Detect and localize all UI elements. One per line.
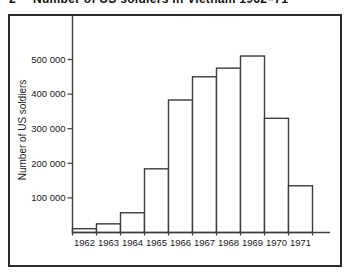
bar-1967 — [193, 77, 217, 233]
bar-1965 — [145, 169, 169, 233]
y-tick-label: 500 000 — [31, 54, 65, 65]
x-tick-label: 1963 — [98, 237, 119, 248]
bar-1963 — [97, 224, 121, 233]
y-tick-label: 200 000 — [31, 158, 65, 169]
x-tick-label: 1964 — [122, 237, 143, 248]
bar-1964 — [121, 213, 145, 233]
bar-chart: 100 000200 000300 000400 000500 00019621… — [0, 0, 351, 272]
x-tick-label: 1969 — [242, 237, 263, 248]
figure-page: 2Number of US soldiers in Vietnam 1962–7… — [0, 0, 351, 272]
bar-1970 — [265, 118, 289, 232]
bar-1969 — [241, 56, 265, 232]
x-tick-label: 1967 — [194, 237, 215, 248]
y-tick-label: 300 000 — [31, 123, 65, 134]
y-tick-label: 400 000 — [31, 88, 65, 99]
x-tick-label: 1966 — [170, 237, 191, 248]
x-tick-label: 1970 — [266, 237, 287, 248]
bar-1966 — [169, 100, 193, 233]
y-tick-label: 100 000 — [31, 192, 65, 203]
x-tick-label: 1962 — [74, 237, 95, 248]
bar-1971 — [289, 186, 313, 233]
x-tick-label: 1965 — [146, 237, 167, 248]
x-tick-label: 1968 — [218, 237, 239, 248]
bar-1968 — [217, 68, 241, 232]
x-tick-label: 1971 — [290, 237, 311, 248]
